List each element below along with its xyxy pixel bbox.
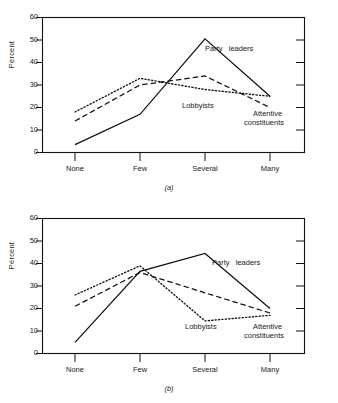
chart-panel-b: Percent 60 50 40 30 20 10 0 bbox=[0, 201, 338, 402]
plot-area-a: Percent 60 50 40 30 20 10 0 bbox=[0, 0, 338, 201]
plot-area-b: Percent 60 50 40 30 20 10 0 bbox=[0, 201, 338, 402]
x-tick-several-a: Several bbox=[182, 165, 228, 173]
x-tick-few-b: Few bbox=[117, 366, 163, 374]
x-tick-many-a: Many bbox=[247, 165, 293, 173]
x-tick-several-b: Several bbox=[182, 366, 228, 374]
annotation-lobbyists-a: Lobbyists bbox=[182, 102, 214, 111]
x-axis-ticks-b bbox=[75, 354, 270, 363]
caption-a: (a) bbox=[0, 183, 338, 192]
series-party-leaders-a bbox=[75, 39, 270, 145]
annotation-attentive-line2-a: constituents bbox=[244, 119, 284, 128]
annotation-lobbyists-b: Lobbyists bbox=[185, 323, 217, 332]
x-tick-none-b: None bbox=[52, 366, 98, 374]
series-lobbyists-b bbox=[75, 266, 270, 321]
figure-container: Percent 60 50 40 30 20 10 0 bbox=[0, 0, 338, 403]
x-axis-ticks-a bbox=[75, 153, 270, 162]
x-tick-few-a: Few bbox=[117, 165, 163, 173]
annotation-party-leaders-b: Party leaders bbox=[212, 259, 260, 268]
y-axis-ticks-right-b bbox=[296, 241, 305, 331]
y-axis-ticks-a bbox=[36, 18, 43, 153]
caption-b: (b) bbox=[0, 384, 338, 393]
annotation-attentive-line2-b: constituents bbox=[244, 332, 284, 341]
x-tick-many-b: Many bbox=[247, 366, 293, 374]
series-lobbyists-a bbox=[75, 78, 270, 112]
y-axis-ticks-b bbox=[36, 219, 43, 354]
x-tick-none-a: None bbox=[52, 165, 98, 173]
annotation-party-leaders-a: Party leaders bbox=[205, 45, 253, 54]
series-attentive-constituents-a bbox=[75, 76, 270, 121]
chart-panel-a: Percent 60 50 40 30 20 10 0 bbox=[0, 0, 338, 201]
y-axis-ticks-right-a bbox=[296, 40, 305, 130]
